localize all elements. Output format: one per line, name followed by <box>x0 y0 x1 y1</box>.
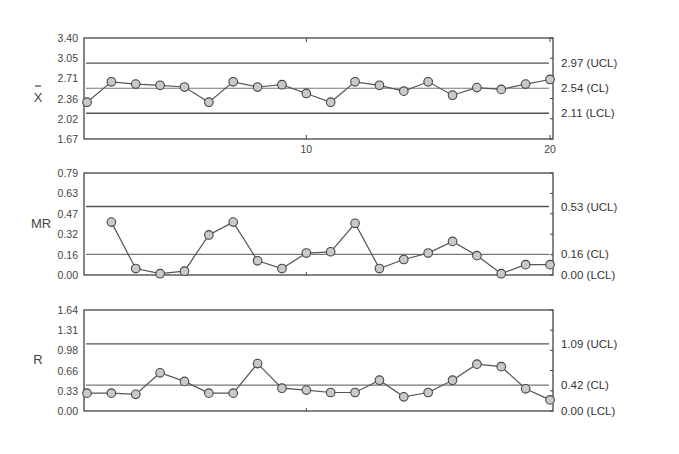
data-point <box>253 256 262 265</box>
data-point <box>156 269 165 278</box>
x-tick-label: 10 <box>300 143 312 155</box>
y-tick-label: 3.40 <box>58 32 79 44</box>
y-tick-label: 0.33 <box>58 385 79 397</box>
data-point <box>131 264 140 273</box>
lcl-label: 0.00 (LCL) <box>561 405 616 417</box>
data-point <box>205 98 214 107</box>
cl-label: 0.42 (CL) <box>561 379 609 391</box>
data-point <box>375 376 384 385</box>
data-point <box>83 389 92 398</box>
y-tick-label: 0.63 <box>58 187 79 199</box>
data-point <box>278 264 287 273</box>
data-point <box>399 255 408 264</box>
mr-chart-panel: 0.000.160.320.470.630.79MR0.53 (UCL)0.16… <box>31 167 618 281</box>
data-point <box>351 219 360 228</box>
data-point <box>205 231 214 240</box>
data-point <box>424 388 433 397</box>
y-tick-label: 0.00 <box>58 269 79 281</box>
data-point <box>448 237 457 246</box>
data-point <box>326 98 335 107</box>
y-tick-label: 0.98 <box>58 344 79 356</box>
y-tick-label: 1.31 <box>58 324 79 336</box>
data-point <box>351 388 360 397</box>
y-tick-label: 0.32 <box>58 228 79 240</box>
y-tick-label: 1.64 <box>58 304 79 316</box>
data-point <box>302 386 311 395</box>
lcl-label: 2.11 (LCL) <box>561 107 615 119</box>
xbar-chart-panel: 1.672.022.362.713.053.40X2.97 (UCL)2.54 … <box>34 32 618 155</box>
data-point <box>131 80 140 89</box>
plot-frame <box>84 310 553 411</box>
y-tick-label: 0.16 <box>58 249 79 261</box>
data-point <box>448 376 457 385</box>
data-point <box>399 393 408 402</box>
data-point <box>131 390 140 399</box>
data-point <box>473 360 482 369</box>
data-point <box>180 267 189 276</box>
y-tick-label: 2.02 <box>58 113 79 125</box>
y-tick-label: 0.47 <box>58 208 79 220</box>
data-point <box>521 260 530 269</box>
ucl-label: 0.53 (UCL) <box>561 201 617 213</box>
data-point <box>497 269 506 278</box>
data-point <box>278 384 287 393</box>
data-point <box>278 80 287 89</box>
data-point <box>107 218 116 227</box>
data-point <box>302 249 311 258</box>
data-point <box>180 377 189 386</box>
data-point <box>205 389 214 398</box>
data-point <box>448 91 457 100</box>
data-point <box>521 80 530 89</box>
data-point <box>351 77 360 86</box>
data-point <box>326 388 335 397</box>
ucl-label: 1.09 (UCL) <box>561 338 617 350</box>
control-charts: 1.672.022.362.713.053.40X2.97 (UCL)2.54 … <box>0 0 679 454</box>
data-point <box>424 77 433 86</box>
data-point <box>375 81 384 90</box>
lcl-label: 0.00 (LCL) <box>561 269 616 281</box>
data-point <box>83 98 92 107</box>
y-axis-label: R <box>33 352 42 367</box>
y-tick-label: 1.67 <box>58 133 79 145</box>
data-point <box>473 83 482 92</box>
data-point <box>156 81 165 90</box>
data-point <box>424 249 433 258</box>
data-point <box>180 83 189 92</box>
data-point <box>546 396 555 405</box>
data-point <box>521 385 530 394</box>
y-axis-label: X <box>34 90 43 105</box>
data-point <box>156 369 165 378</box>
y-tick-label: 2.36 <box>58 93 79 105</box>
data-point <box>399 87 408 96</box>
data-point <box>302 89 311 98</box>
data-point <box>229 389 238 398</box>
data-point <box>497 85 506 94</box>
data-point <box>546 75 555 84</box>
series-line <box>87 364 550 400</box>
y-tick-label: 0.79 <box>58 167 79 179</box>
data-point <box>375 264 384 273</box>
data-point <box>107 77 116 86</box>
x-tick-label: 20 <box>544 143 556 155</box>
data-point <box>473 251 482 260</box>
data-point <box>229 218 238 227</box>
cl-label: 2.54 (CL) <box>561 82 609 94</box>
data-point <box>546 260 555 269</box>
r-chart-panel: 0.000.330.660.981.311.64R1.09 (UCL)0.42 … <box>33 304 617 417</box>
y-axis-label: MR <box>31 216 51 231</box>
y-tick-label: 3.05 <box>58 52 79 64</box>
y-tick-label: 0.66 <box>58 365 79 377</box>
data-point <box>326 247 335 256</box>
data-point <box>253 359 262 368</box>
data-point <box>253 83 262 92</box>
y-tick-label: 2.71 <box>58 72 79 84</box>
data-point <box>229 77 238 86</box>
y-tick-label: 0.00 <box>58 405 79 417</box>
data-point <box>107 389 116 398</box>
cl-label: 0.16 (CL) <box>561 248 609 260</box>
data-point <box>497 362 506 371</box>
ucl-label: 2.97 (UCL) <box>561 57 617 69</box>
